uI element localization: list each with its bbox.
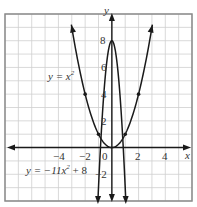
y-tick-6: 6 — [101, 62, 107, 73]
x-tick-4: 4 — [162, 151, 168, 162]
x-tick-0: 0 — [102, 151, 108, 162]
y-axis-label: y — [104, 5, 109, 16]
y-tick-4: 4 — [101, 89, 107, 100]
y-tick--2: −2 — [95, 169, 107, 180]
x-axis-label: x — [185, 150, 190, 161]
series-label-narrow-parabola: y = −11x2 + 8 — [26, 164, 87, 176]
x-tick-2: 2 — [135, 151, 141, 162]
x-tick--4: −4 — [53, 151, 65, 162]
x-tick--2: −2 — [79, 151, 91, 162]
series-label-parabola: y = x2 — [48, 70, 74, 82]
y-tick-2: 2 — [101, 116, 107, 127]
y-tick-8: 8 — [100, 35, 106, 46]
